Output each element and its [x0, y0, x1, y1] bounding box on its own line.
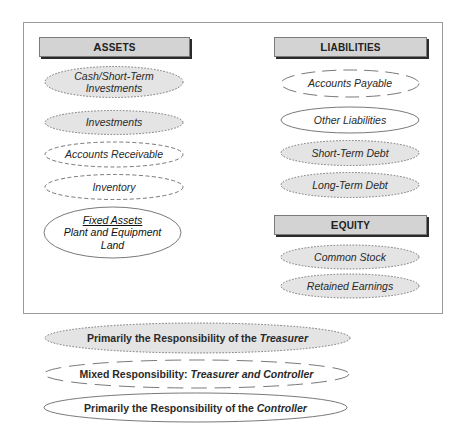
asset-item-cash-short-term-investments: Cash/Short-Term Investments — [45, 66, 183, 98]
legend-controller: Primarily the Responsibility of the Cont… — [44, 393, 347, 422]
legend-mixed: Mixed Responsibility: Treasurer and Cont… — [44, 360, 349, 388]
equity-item-common-stock: Common Stock — [281, 245, 419, 269]
liability-item-accounts-payable: Accounts Payable — [281, 70, 419, 97]
asset-item-fixed-assets: Fixed Assets Plant and Equipment Land — [44, 207, 181, 258]
liabilities-header: LIABILITIES — [274, 37, 427, 57]
equity-header: EQUITY — [274, 215, 427, 235]
legend-treasurer: Primarily the Responsibility of the Trea… — [45, 323, 350, 353]
assets-header: ASSETS — [39, 37, 190, 57]
liability-item-short-term-debt: Short-Term Debt — [281, 140, 419, 166]
equity-item-retained-earnings: Retained Earnings — [281, 274, 419, 298]
liability-item-long-term-debt: Long-Term Debt — [281, 172, 419, 198]
asset-item-inventory: Inventory — [45, 174, 183, 200]
asset-item-accounts-receivable: Accounts Receivable — [45, 142, 183, 167]
liability-item-other-liabilities: Other Liabilities — [281, 107, 419, 133]
asset-item-investments: Investments — [45, 110, 183, 135]
